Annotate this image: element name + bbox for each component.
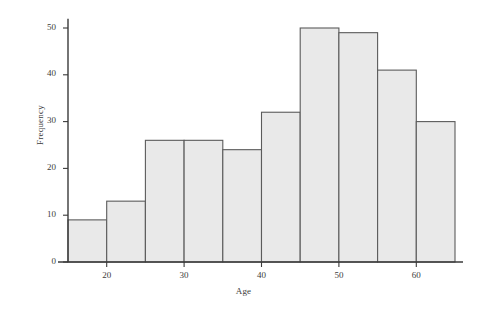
y-tick-label: 20 — [32, 162, 56, 172]
y-tick-label: 40 — [32, 68, 56, 78]
x-tick-label: 40 — [250, 270, 274, 280]
histogram-bar — [416, 122, 455, 262]
histogram-bar — [300, 28, 339, 262]
x-tick-label: 30 — [172, 270, 196, 280]
y-tick-label: 0 — [32, 256, 56, 266]
plot-area — [0, 0, 487, 311]
x-axis-title: Age — [0, 286, 487, 296]
y-tick-label: 50 — [32, 22, 56, 32]
y-tick-label: 10 — [32, 209, 56, 219]
histogram-bar — [378, 70, 417, 262]
histogram-bar — [184, 140, 223, 262]
histogram-bar — [145, 140, 184, 262]
histogram-bar — [339, 33, 378, 262]
histogram-bar — [68, 220, 107, 262]
x-tick-label: 60 — [404, 270, 428, 280]
x-tick-label: 20 — [95, 270, 119, 280]
histogram-bar — [223, 150, 262, 262]
x-tick-label: 50 — [327, 270, 351, 280]
histogram-bar — [107, 201, 146, 262]
histogram-figure: 01020304050 2030405060 Frequency Age — [0, 0, 487, 311]
histogram-bar — [262, 112, 301, 262]
bars-group — [68, 28, 455, 262]
y-axis-title: Frequency — [35, 95, 45, 155]
